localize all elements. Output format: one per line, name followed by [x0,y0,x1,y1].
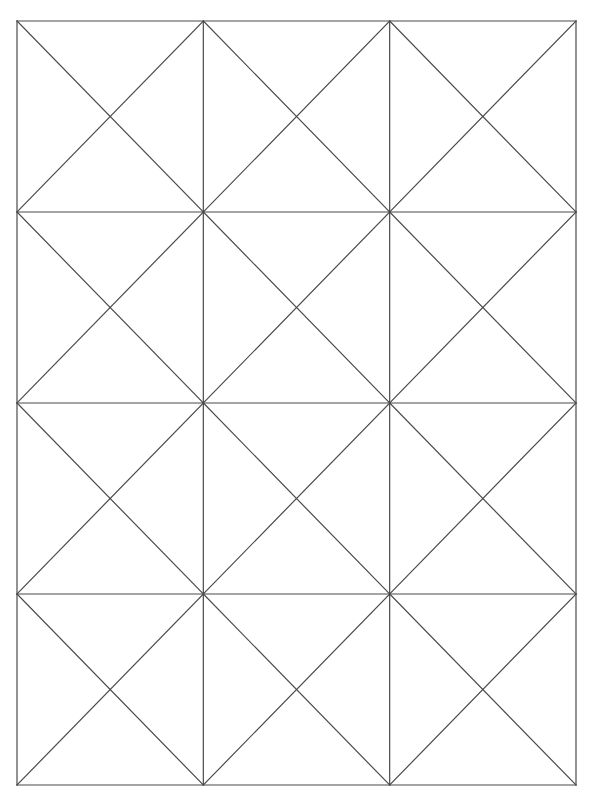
page-background [0,0,593,802]
diagonal-cross-grid-figure [0,0,593,802]
pattern-canvas [0,0,593,802]
